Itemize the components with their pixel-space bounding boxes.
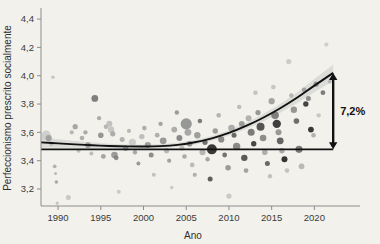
data-point bbox=[286, 59, 291, 64]
data-point bbox=[80, 136, 85, 141]
data-point bbox=[98, 132, 104, 138]
data-point bbox=[181, 118, 192, 129]
data-point bbox=[91, 95, 98, 102]
y-tick-label: 3,6 bbox=[21, 127, 34, 138]
data-point bbox=[277, 137, 284, 144]
data-point bbox=[255, 110, 260, 115]
data-point bbox=[260, 135, 267, 142]
data-point bbox=[142, 126, 147, 131]
data-point bbox=[294, 118, 300, 124]
y-tick-label: 4,4 bbox=[21, 13, 34, 24]
data-point bbox=[46, 135, 52, 141]
data-point bbox=[216, 113, 221, 118]
data-point bbox=[175, 110, 179, 114]
data-point bbox=[73, 124, 78, 129]
data-point bbox=[127, 129, 131, 133]
data-point bbox=[239, 121, 245, 127]
data-point bbox=[139, 134, 144, 139]
data-point bbox=[97, 116, 101, 120]
data-point bbox=[176, 135, 182, 141]
data-point bbox=[66, 195, 71, 200]
data-point bbox=[311, 133, 316, 138]
x-axis-title: Ano bbox=[184, 230, 202, 241]
x-tick-label: 2010 bbox=[218, 212, 239, 223]
chart-container: 7,2% 1990199520002005201020152020 3,23,4… bbox=[0, 0, 380, 244]
data-point bbox=[291, 107, 297, 113]
data-point bbox=[101, 154, 106, 159]
data-point bbox=[328, 79, 332, 83]
data-point bbox=[303, 101, 308, 106]
x-tick-label: 2015 bbox=[261, 212, 282, 223]
x-tick-label: 2000 bbox=[133, 212, 154, 223]
data-point bbox=[208, 177, 213, 182]
data-point bbox=[275, 129, 281, 135]
data-point bbox=[70, 130, 74, 134]
y-tick-label: 3,4 bbox=[21, 155, 34, 166]
data-point bbox=[89, 152, 93, 156]
data-point bbox=[285, 168, 290, 173]
data-point bbox=[225, 165, 231, 171]
data-point bbox=[190, 163, 195, 168]
data-point bbox=[114, 155, 119, 160]
data-point bbox=[54, 172, 57, 175]
data-point bbox=[289, 93, 293, 97]
data-point bbox=[185, 129, 192, 136]
y-axis-title: Perfeccionismo prescrito socialmente bbox=[2, 25, 13, 191]
data-point bbox=[133, 150, 137, 154]
data-point bbox=[158, 122, 162, 126]
data-point bbox=[308, 127, 314, 133]
data-point bbox=[117, 190, 121, 194]
data-point bbox=[106, 121, 112, 127]
data-point bbox=[155, 133, 160, 138]
data-point bbox=[167, 159, 171, 163]
data-point bbox=[55, 180, 59, 184]
data-point bbox=[160, 137, 167, 144]
data-point bbox=[198, 119, 203, 124]
data-point bbox=[244, 168, 249, 173]
data-point bbox=[232, 133, 237, 138]
data-point bbox=[171, 127, 177, 133]
data-point bbox=[248, 129, 255, 136]
data-point bbox=[56, 202, 59, 205]
data-point bbox=[194, 132, 200, 138]
data-point bbox=[213, 128, 218, 133]
y-tick-label: 4,2 bbox=[21, 42, 34, 53]
data-point bbox=[110, 131, 115, 136]
data-point bbox=[253, 90, 258, 95]
data-point bbox=[83, 130, 87, 134]
x-tick-label: 2020 bbox=[304, 212, 325, 223]
data-point bbox=[273, 120, 281, 128]
data-point bbox=[251, 141, 256, 146]
data-point bbox=[193, 173, 197, 177]
data-point bbox=[316, 113, 320, 117]
data-point bbox=[299, 163, 305, 169]
data-point bbox=[271, 85, 276, 90]
data-point bbox=[222, 153, 227, 158]
data-point bbox=[136, 162, 140, 166]
data-point bbox=[321, 90, 326, 95]
data-point bbox=[241, 155, 247, 161]
data-point bbox=[205, 157, 209, 161]
data-point bbox=[324, 42, 328, 46]
data-point bbox=[306, 96, 311, 101]
data-point bbox=[152, 173, 156, 177]
y-tick-label: 4,0 bbox=[21, 70, 34, 81]
data-point bbox=[257, 123, 265, 131]
scatter-plot-svg: 7,2% 1990199520002005201020152020 3,23,4… bbox=[0, 0, 380, 244]
data-point bbox=[170, 186, 174, 190]
x-tick-label: 2005 bbox=[176, 212, 197, 223]
data-point bbox=[268, 174, 272, 178]
data-point bbox=[237, 105, 241, 109]
data-point bbox=[120, 137, 125, 142]
data-point bbox=[149, 153, 154, 158]
x-tick-label: 1990 bbox=[48, 212, 69, 223]
data-point bbox=[129, 139, 136, 146]
x-tick-label: 1995 bbox=[90, 212, 111, 223]
data-point bbox=[218, 136, 224, 142]
data-point bbox=[226, 193, 231, 198]
data-point bbox=[265, 161, 270, 166]
data-point bbox=[53, 164, 57, 168]
annotation-label: 7,2% bbox=[340, 105, 365, 117]
y-tick-label: 3,2 bbox=[21, 183, 34, 194]
data-point bbox=[246, 115, 252, 121]
